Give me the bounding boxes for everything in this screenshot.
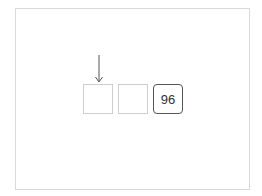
array-cell-1	[118, 84, 148, 114]
array-cell-0	[83, 84, 113, 114]
array-cell-2: 96	[153, 84, 183, 114]
down-arrow-icon	[93, 54, 105, 84]
